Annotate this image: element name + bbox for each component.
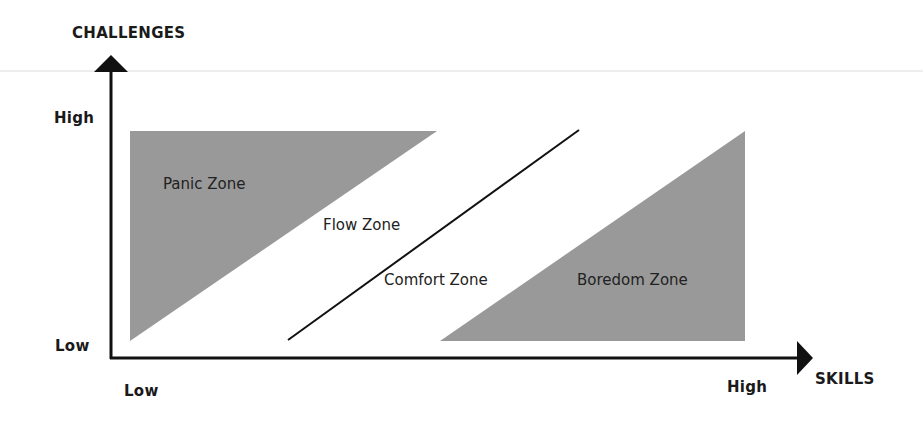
y-axis-high-label: High (54, 109, 94, 127)
boredom-zone-shape (440, 131, 745, 341)
flow-diagram-canvas (0, 0, 923, 427)
y-axis-title: CHALLENGES (72, 24, 185, 42)
panic-zone-shape (130, 131, 437, 341)
y-axis-low-label: Low (55, 337, 90, 355)
x-axis-low-label: Low (124, 382, 159, 400)
x-axis-high-label: High (727, 378, 767, 396)
x-axis-title: SKILLS (815, 370, 875, 388)
x-axis-arrow-icon (797, 341, 813, 375)
flow-zone-label: Flow Zone (323, 216, 400, 234)
comfort-zone-label: Comfort Zone (384, 271, 488, 289)
boredom-zone-label: Boredom Zone (577, 271, 688, 289)
y-axis-arrow-icon (94, 55, 128, 72)
panic-zone-label: Panic Zone (163, 175, 245, 193)
